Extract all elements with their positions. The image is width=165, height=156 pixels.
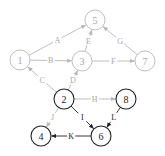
edge-label: E — [86, 37, 91, 46]
edges-layer: ABCDEFGHIJKL — [28, 25, 137, 141]
edge-l: L — [107, 107, 121, 127]
nodes-layer: 15372846 — [10, 10, 155, 146]
edge-label: A — [54, 36, 60, 45]
edge-k: K — [52, 132, 92, 142]
node-2: 2 — [54, 89, 74, 109]
edge-b: B — [30, 56, 72, 66]
node-8: 8 — [116, 89, 136, 109]
edge-label: C — [40, 76, 45, 85]
edge-j: J — [47, 107, 59, 127]
edge-f: F — [92, 57, 135, 67]
edge-g: G — [103, 27, 137, 55]
edge-e: E — [84, 30, 92, 51]
node-label: 6 — [99, 131, 104, 142]
node-1: 1 — [10, 50, 30, 70]
edge-c: C — [28, 67, 57, 92]
edge-label: B — [48, 56, 53, 65]
node-3: 3 — [72, 51, 92, 71]
edge-a: A — [29, 25, 86, 55]
edge-label: F — [111, 57, 116, 66]
node-4: 4 — [31, 126, 51, 146]
node-6: 6 — [91, 126, 111, 146]
node-label: 2 — [62, 94, 67, 105]
node-label: 1 — [18, 55, 23, 66]
node-label: 8 — [124, 94, 129, 105]
edge-label: L — [111, 113, 116, 122]
node-7: 7 — [135, 51, 155, 71]
edge-h: H — [74, 95, 116, 105]
edge-label: I — [81, 113, 84, 122]
edge-label: K — [68, 132, 74, 141]
edge-d: D — [68, 70, 77, 89]
node-label: 5 — [93, 15, 98, 26]
edge-label: D — [70, 76, 76, 85]
directed-graph: ABCDEFGHIJKL 15372846 — [0, 0, 165, 156]
edge-label: G — [117, 37, 123, 46]
node-5: 5 — [85, 10, 105, 30]
edge-label: H — [92, 95, 98, 104]
edge-label: J — [51, 113, 54, 122]
node-label: 7 — [143, 56, 148, 67]
edge-i: I — [71, 106, 94, 129]
node-label: 3 — [80, 56, 85, 67]
node-label: 4 — [39, 131, 44, 142]
